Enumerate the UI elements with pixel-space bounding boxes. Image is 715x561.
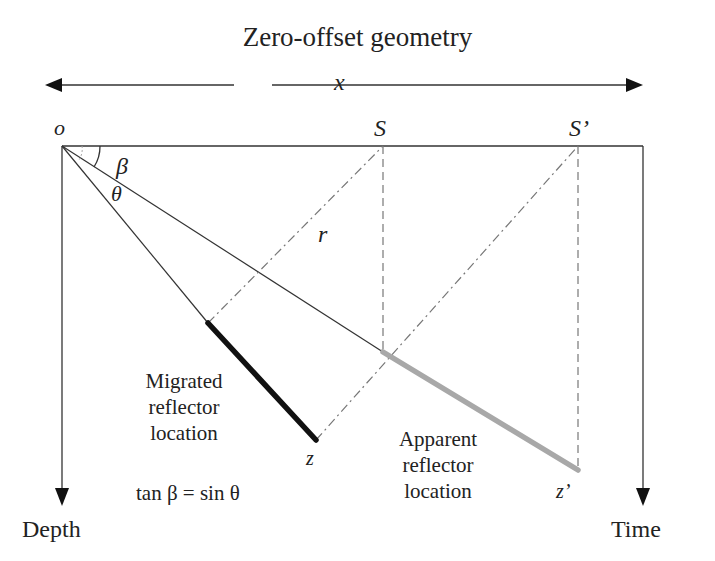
time-axis-label: Time xyxy=(611,517,661,541)
beta-arc xyxy=(94,146,100,167)
time-axis xyxy=(636,146,650,506)
migrated-reflector-label: Migrated reflector location xyxy=(124,368,244,446)
zero-offset-diagram xyxy=(0,0,715,561)
migrated-ray xyxy=(62,146,208,323)
migrated-line-1: Migrated xyxy=(124,368,244,394)
migrated-line-2: reflector xyxy=(124,394,244,420)
apparent-line-2: reflector xyxy=(378,452,498,478)
apparent-line-3: location xyxy=(378,478,498,504)
apparent-ray xyxy=(62,146,383,352)
z-prime-label: z’ xyxy=(556,481,570,501)
z-label: z xyxy=(306,448,314,468)
radius-line-S-prime xyxy=(316,146,578,440)
r-label: r xyxy=(318,222,327,246)
apparent-line-1: Apparent xyxy=(378,426,498,452)
S-prime-label: S’ xyxy=(569,116,589,140)
migrated-line-3: location xyxy=(124,420,244,446)
equation: tan β = sin θ xyxy=(136,483,240,504)
apparent-reflector-label: Apparent reflector location xyxy=(378,426,498,504)
beta-label: β xyxy=(116,154,128,178)
x-label: x xyxy=(334,70,345,94)
S-label: S xyxy=(374,116,386,140)
depth-axis-label: Depth xyxy=(22,517,81,541)
theta-label: θ xyxy=(111,183,122,205)
diagram-title: Zero-offset geometry xyxy=(0,24,715,51)
depth-axis xyxy=(55,146,69,506)
origin-label: o xyxy=(54,117,65,139)
